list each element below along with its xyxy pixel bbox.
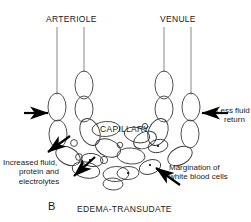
- increased-fluid-annotation: Increased fluid, protein and electrolyte…: [3, 158, 75, 186]
- less-fluid-line-2: return: [216, 115, 251, 124]
- leukocyte-nucleus: [157, 145, 159, 147]
- less-fluid-line-1: Less fluid: [216, 106, 251, 115]
- vessel-lumen-lines: [57, 27, 191, 95]
- capillary-bed-drawing: [0, 0, 251, 222]
- endothelial-cell: [48, 93, 66, 121]
- endothelial-cell: [75, 71, 93, 99]
- fluid-droplet: [71, 140, 78, 147]
- endothelial-cell: [93, 135, 123, 161]
- endothelial-cell: [182, 93, 200, 121]
- panel-letter: B: [48, 200, 55, 213]
- endothelial-cell: [116, 147, 145, 165]
- leukocyte-nucleus: [149, 164, 151, 166]
- endothelial-cell: [71, 159, 102, 180]
- leukocyte-nucleus: [127, 172, 129, 174]
- venule-label: VENULE: [160, 14, 196, 24]
- edema-transudate-label: EDEMA-TRANSUDATE: [77, 204, 172, 214]
- margination-annotation: Margination of white blood cells: [169, 163, 251, 182]
- fluid-droplet: [100, 156, 107, 163]
- leukocyte: [103, 178, 123, 191]
- capillary-label: CAPILLARY: [100, 124, 149, 134]
- leukocyte: [137, 157, 162, 177]
- increased-fluid-line-3: electrolytes: [3, 177, 75, 186]
- arteriole-label: ARTERIOLE: [46, 14, 97, 24]
- less-fluid-return-annotation: Less fluid return: [216, 106, 251, 125]
- increased-fluid-line-1: Increased fluid,: [3, 158, 75, 167]
- edema-transudate-figure: ARTERIOLE VENULE CAPILLARY EDEMA-TRANSUD…: [0, 0, 251, 222]
- endothelial-cell: [155, 71, 173, 99]
- endothelial-cell: [181, 120, 199, 148]
- increased-fluid-line-2: protein and: [3, 167, 75, 176]
- endothelial-cell: [75, 96, 93, 122]
- margination-line-2: white blood cells: [169, 172, 251, 181]
- endothelial-cell: [155, 96, 173, 122]
- margination-line-1: Margination of: [169, 163, 251, 172]
